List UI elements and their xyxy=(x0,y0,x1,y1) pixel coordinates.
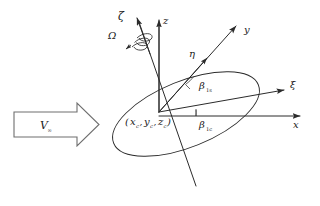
axis-label-z: z xyxy=(162,15,169,26)
svg-text:∞: ∞ xyxy=(48,127,52,133)
disk-center-coordinates: ( x c , y c , z c ) xyxy=(125,116,171,129)
axis-label-xi: ξ xyxy=(290,79,296,90)
svg-text:y: y xyxy=(143,116,150,127)
axis-label-x: x xyxy=(293,119,299,130)
svg-text:,: , xyxy=(140,117,143,127)
svg-text:,: , xyxy=(154,117,157,127)
svg-text:): ) xyxy=(166,116,171,127)
rotor-disk-diagram: ζ Ω z y η ξ x β 1s β 1c V ∞ ( x c , y c xyxy=(0,0,320,206)
svg-text:β: β xyxy=(198,80,205,91)
axis-label-eta: η xyxy=(189,48,195,59)
axis-label-zeta: ζ xyxy=(118,10,125,23)
freestream-label-v-infinity: V ∞ xyxy=(40,119,52,133)
rotation-label-omega: Ω xyxy=(107,30,116,41)
svg-text:1s: 1s xyxy=(206,87,212,93)
angle-label-beta-1c: β 1c xyxy=(198,119,212,132)
svg-text:β: β xyxy=(198,119,205,130)
svg-text:1c: 1c xyxy=(206,126,212,132)
axis-label-y: y xyxy=(243,24,250,35)
angle-label-beta-1s: β 1s xyxy=(198,80,212,93)
